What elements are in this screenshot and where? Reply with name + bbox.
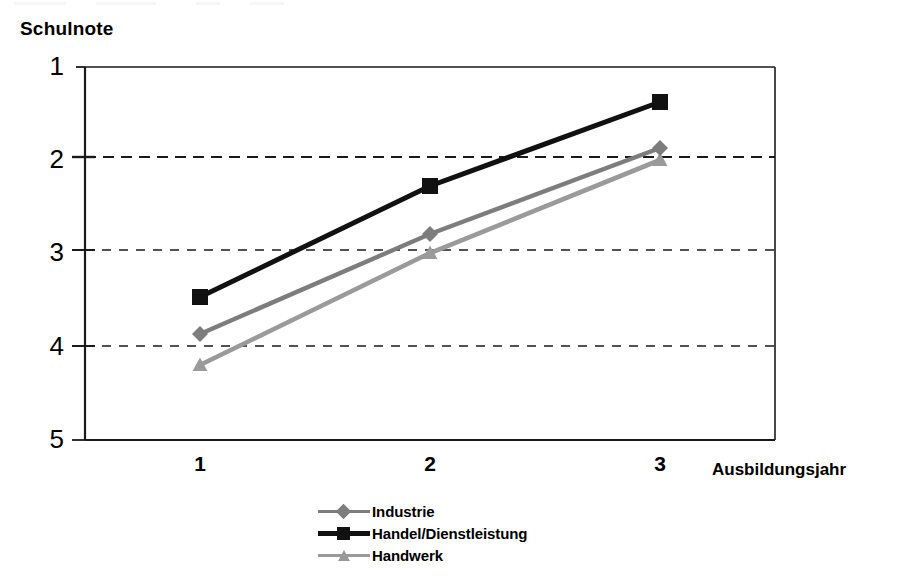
chart-canvas: Schulnote Ausbildungsjahr 1 2 3 4 5 1 2 … (0, 0, 898, 586)
legend-item-handwerk: Handwerk (318, 544, 618, 566)
plot-area (0, 0, 898, 586)
legend-label-industrie: Industrie (372, 503, 434, 520)
legend-label-handel-dienstleistung: Handel/Dienstleistung (372, 525, 527, 542)
legend-item-industrie: Industrie (318, 500, 618, 522)
legend-label-handwerk: Handwerk (372, 547, 443, 564)
legend-key-handwerk (318, 546, 370, 564)
series-industrie (192, 140, 668, 342)
square-icon (337, 527, 350, 540)
series-handel-dienstleistung (192, 94, 668, 305)
chart-legend: Industrie Handel/Dienstleistung Handwerk (318, 500, 618, 566)
diamond-icon (336, 504, 352, 520)
legend-key-handel-dienstleistung (318, 524, 370, 542)
legend-item-handel-dienstleistung: Handel/Dienstleistung (318, 522, 618, 544)
y-tick-marks (72, 67, 95, 440)
triangle-icon (338, 550, 350, 561)
legend-key-industrie (318, 502, 370, 520)
